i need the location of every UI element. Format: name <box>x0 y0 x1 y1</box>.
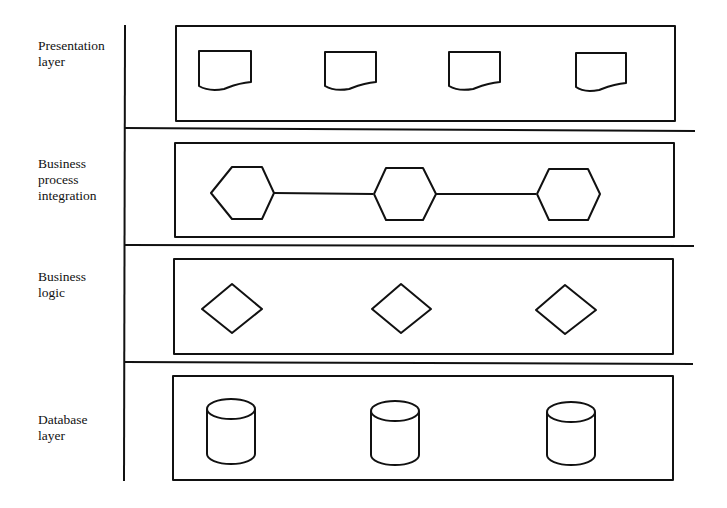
separator-line <box>125 362 693 364</box>
document-icon <box>199 51 251 90</box>
diamond-icon <box>372 284 431 333</box>
hexagon-icon <box>537 169 600 220</box>
layer-diagram <box>0 0 727 508</box>
separator-line <box>125 128 695 131</box>
diamond-icon <box>202 284 262 333</box>
database-layer-box <box>173 376 673 480</box>
document-icon <box>449 52 500 90</box>
cylinder-icon <box>207 399 255 464</box>
document-icon <box>576 53 626 91</box>
hexagon-icon <box>211 167 274 219</box>
cylinder-icon <box>547 402 595 465</box>
vertical-axis-line <box>124 25 125 481</box>
diamond-icon <box>536 285 596 334</box>
connector-line <box>274 193 373 194</box>
business-logic-box <box>174 259 673 354</box>
document-icon <box>325 52 376 90</box>
separator-line <box>125 245 694 246</box>
hexagon-icon <box>374 168 436 220</box>
cylinder-icon <box>371 401 419 465</box>
